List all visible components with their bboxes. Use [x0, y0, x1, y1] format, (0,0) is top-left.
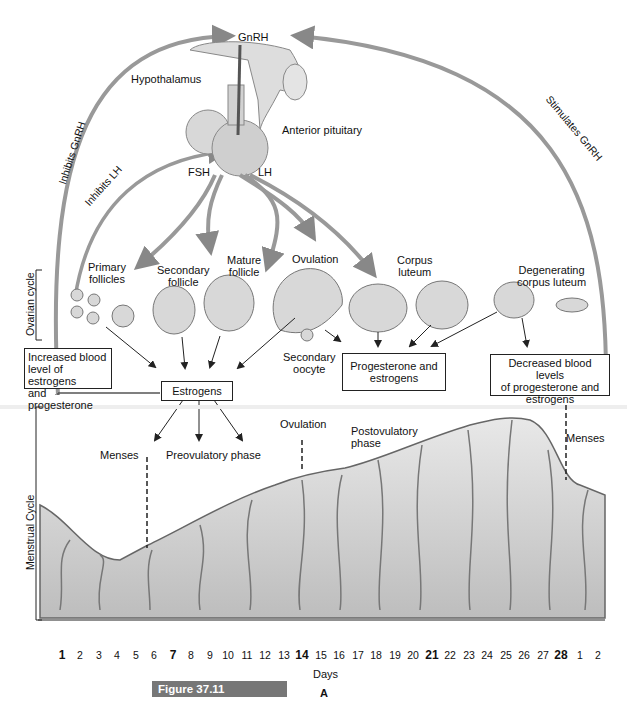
ovarian-cycle-label: Ovarian cycle [24, 272, 36, 336]
secondary-oocyte-label: Secondaryoocyte [283, 351, 336, 375]
corpus-luteum-label: Corpusluteum [397, 254, 432, 278]
secondary-follicle-label: Secondaryfollicle [157, 264, 210, 288]
panel-label: A [320, 687, 328, 699]
estrogens-box: Estrogens [161, 381, 233, 401]
menses-label-2: Menses [566, 432, 605, 444]
primary-follicles-label: Primaryfollicles [88, 261, 126, 285]
ovulation-stage-label: Ovulation [292, 253, 338, 265]
gnrh-label: GnRH [238, 31, 269, 43]
inhibits-gnrh-arrow [56, 36, 228, 395]
menstrual-cycle-label: Menstrual Cycle [24, 495, 36, 570]
lh-label: LH [258, 166, 272, 178]
figure-caption: Figure 37.11 [152, 681, 287, 697]
day-axis: 1 2 3 4 5 6 7 8 9 10 11 12 13 14 15 16 1… [38, 649, 620, 663]
anterior-pituitary-label: Anterior pituitary [282, 124, 362, 136]
ovulation-phase-label: Ovulation [280, 418, 326, 430]
fsh-label: FSH [188, 166, 210, 178]
decreased-hormones-box: Decreased blood levelsof progesterone an… [490, 354, 610, 396]
preovulatory-phase-label: Preovulatory phase [166, 449, 261, 461]
postovulatory-phase-label: Postovulatoryphase [351, 425, 418, 449]
increased-hormones-box: Increased bloodlevel of estrogensand pro… [24, 348, 112, 389]
degenerating-corpus-luteum-label: Degeneratingcorpus luteum [517, 264, 586, 288]
hypothalamus-label: Hypothalamus [131, 73, 201, 85]
mature-follicle-label: Maturefollicle [227, 254, 261, 278]
menses-label-1: Menses [100, 449, 139, 461]
days-axis-label: Days [313, 668, 338, 680]
progesterone-estrogens-box: Progesterone andestrogens [342, 353, 446, 391]
